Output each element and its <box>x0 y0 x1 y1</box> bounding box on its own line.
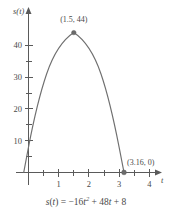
x-tick-label-1: 1 <box>57 179 61 189</box>
equation-term3-const: 8 <box>122 197 127 207</box>
parabola-curve <box>24 33 124 173</box>
x-tick-label-2: 2 <box>87 179 91 189</box>
y-tick-label-20: 20 <box>14 104 23 114</box>
x-axis-label: t <box>161 175 164 185</box>
equation-term2-coeff: 48 <box>99 197 109 207</box>
equation-term1-exponent: 2 <box>86 195 89 202</box>
equation-equals: = <box>61 197 66 207</box>
y-axis-label: s(t) <box>13 6 25 16</box>
x-tick-label-3: 3 <box>117 179 121 189</box>
equation-plus-1: + <box>92 197 97 207</box>
equation-plus-2: + <box>114 197 119 207</box>
equation-term2-var: t <box>109 197 112 207</box>
function-equation: s(t) = −16t2 + 48t + 8 <box>0 195 172 207</box>
graph-canvas: s(t) t 1 2 3 4 10 20 30 40 (1.5, 44) (3.… <box>0 0 172 212</box>
y-tick-label-10: 10 <box>14 136 23 146</box>
y-tick-label-40: 40 <box>14 40 23 50</box>
x-tick-label-4: 4 <box>147 179 152 189</box>
vertex-marker-dot <box>72 30 76 34</box>
vertex-annotation-label: (1.5, 44) <box>60 15 88 24</box>
x-intercept-annotation-label: (3.16, 0) <box>127 158 155 167</box>
x-intercept-marker-dot <box>122 170 127 175</box>
equation-term1-coeff: −16 <box>68 197 83 207</box>
equation-paren-close: ) <box>55 197 58 207</box>
y-tick-label-30: 30 <box>14 72 23 82</box>
parabola-figure: s(t) t 1 2 3 4 10 20 30 40 (1.5, 44) (3.… <box>0 0 172 212</box>
y-axis-arrow-icon <box>26 7 32 14</box>
